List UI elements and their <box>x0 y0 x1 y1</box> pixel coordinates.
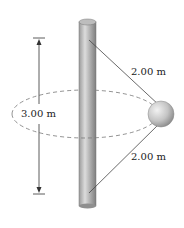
lower-string-label: 2.00 m <box>131 151 166 162</box>
pole-top <box>79 19 96 25</box>
ball <box>148 101 174 127</box>
upper-string-label: 2.00 m <box>131 66 166 77</box>
height-label: 3.00 m <box>21 108 56 119</box>
vertical-pole <box>79 22 96 206</box>
